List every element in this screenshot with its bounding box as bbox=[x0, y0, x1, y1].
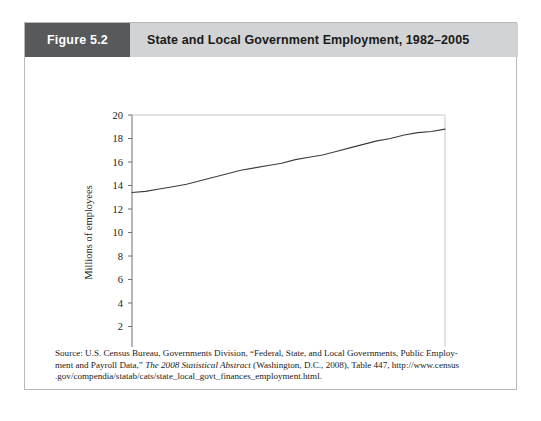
source-line-3: .gov/compendia/statab/cats/state_local_g… bbox=[55, 371, 495, 383]
source-line-2-prefix: ment and Payroll Data,” bbox=[55, 360, 145, 370]
source-publication-title: The 2008 Statistical Abstract bbox=[145, 360, 251, 370]
source-line-2: ment and Payroll Data,” The 2008 Statist… bbox=[55, 360, 495, 372]
y-tick-label: 20 bbox=[113, 110, 124, 121]
figure-header-bar: Figure 5.2 State and Local Government Em… bbox=[25, 23, 518, 57]
y-tick-label: 6 bbox=[118, 274, 123, 285]
figure-card: Figure 5.2 State and Local Government Em… bbox=[24, 22, 517, 390]
y-tick-label: 16 bbox=[113, 157, 124, 168]
y-axis-tick-labels: 02468101214161820 bbox=[113, 110, 124, 347]
y-tick-label: 14 bbox=[113, 180, 124, 191]
line-chart: 02468101214161820 1982198719921997200220… bbox=[25, 57, 518, 347]
y-tick-label: 2 bbox=[118, 321, 123, 332]
y-axis-ticks bbox=[128, 115, 132, 347]
y-tick-label: 4 bbox=[118, 298, 124, 309]
y-tick-label: 18 bbox=[113, 133, 124, 144]
y-tick-label: 12 bbox=[113, 204, 124, 215]
source-line-2-suffix: (Washington, D.C., 2008), Table 447, htt… bbox=[251, 360, 459, 370]
y-tick-label: 0 bbox=[118, 345, 123, 347]
data-series-line bbox=[132, 129, 445, 192]
figure-title: State and Local Government Employment, 1… bbox=[130, 23, 518, 57]
series-line bbox=[132, 129, 445, 192]
y-axis-title: Millions of employees bbox=[83, 185, 94, 280]
y-tick-label: 10 bbox=[113, 227, 124, 238]
source-line-1: Source: U.S. Census Bureau, Governments … bbox=[55, 348, 495, 360]
chart-region: 02468101214161820 1982198719921997200220… bbox=[25, 57, 518, 347]
figure-number-label: Figure 5.2 bbox=[25, 23, 130, 57]
source-note: Source: U.S. Census Bureau, Governments … bbox=[55, 348, 495, 383]
y-tick-label: 8 bbox=[118, 251, 123, 262]
plot-frame bbox=[132, 115, 445, 347]
